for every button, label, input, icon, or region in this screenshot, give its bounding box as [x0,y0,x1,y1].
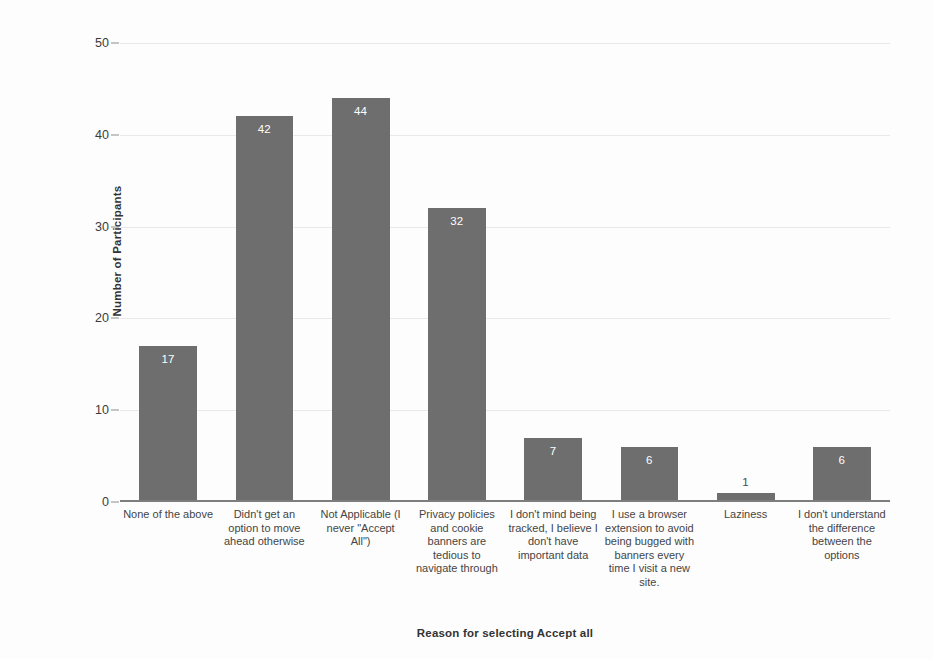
bar-value-label: 32 [450,215,463,227]
bar-slot: 17 [120,43,216,502]
x-tick-label: Laziness [698,508,794,522]
bar-value-label: 6 [839,454,846,466]
y-tick-dash-40 [111,134,119,135]
x-tick-label: Privacy policies and cookie banners are … [409,508,505,576]
plot-area: 50 40 30 20 10 0 17 [120,43,890,502]
y-tick-label-10: 10 [95,403,109,417]
x-tick-label: Not Applicable (I never "Accept All") [313,508,409,549]
bar-value-label: 1 [742,476,749,488]
y-axis-title: Number of Participants [0,0,100,502]
bar[interactable]: 17 [139,346,197,502]
bar-chart-figure: Number of Participants 50 40 30 20 10 0 [0,0,933,659]
y-tick-label-40: 40 [95,128,109,142]
x-tick-label: I don't mind being tracked, I believe I … [505,508,601,562]
bar-value-label: 44 [354,105,367,117]
y-tick-dash-10 [111,410,119,411]
bar-slot: 7 [505,43,601,502]
y-tick-label-50: 50 [95,36,109,50]
bar-value-label: 17 [161,353,174,365]
y-tick-dash-30 [111,226,119,227]
y-tick-label-30: 30 [95,220,109,234]
bar-value-label: 42 [258,123,271,135]
bar-slot: 6 [601,43,697,502]
x-axis-line [120,500,890,502]
bar-slot: 44 [313,43,409,502]
bar-slot: 1 [698,43,794,502]
x-axis-title: Reason for selecting Accept all [120,627,890,639]
bar[interactable]: 6 [621,447,679,502]
x-tick-label: I don't understand the difference betwee… [794,508,890,562]
bar-value-label: 7 [550,445,557,457]
x-tick-label: None of the above [120,508,216,522]
bar-slot: 42 [216,43,312,502]
bar-value-label: 6 [646,454,653,466]
bar[interactable]: 44 [332,98,390,502]
bar-slot: 32 [409,43,505,502]
x-tick-label: I use a browser extension to avoid being… [601,508,697,589]
bar[interactable]: 6 [813,447,871,502]
x-axis-category-labels: None of the above Didn't get an option t… [120,508,890,589]
bar[interactable]: 42 [236,116,294,502]
bar[interactable]: 7 [524,438,582,502]
bar[interactable]: 32 [428,208,486,502]
y-tick-dash-50 [111,43,119,44]
y-tick-label-20: 20 [95,311,109,325]
bar-slot: 6 [794,43,890,502]
gridline-0: 0 [120,502,890,503]
y-tick-dash-20 [111,318,119,319]
x-tick-label: Didn't get an option to move ahead other… [216,508,312,549]
y-tick-dash-0 [111,502,119,503]
y-tick-label-0: 0 [102,495,109,509]
bars-layer: 17 42 44 32 7 [120,43,890,502]
